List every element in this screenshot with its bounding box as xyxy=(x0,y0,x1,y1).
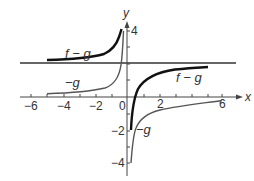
curve-label-f-minus-g-left: f − g xyxy=(65,46,91,61)
function-graph: x y −6 −4 −2 0 2 6 4 −2 −4 f − g −g f − … xyxy=(0,0,254,181)
x-tick-label: 0 xyxy=(119,99,126,113)
x-axis-arrow-icon xyxy=(236,95,243,100)
y-axis-label: y xyxy=(122,6,130,20)
y-tick-label: −4 xyxy=(111,156,125,170)
x-tick-label: −4 xyxy=(57,99,71,113)
x-axis-label: x xyxy=(244,90,252,104)
y-tick-label: −2 xyxy=(111,124,125,138)
x-tick-label: −6 xyxy=(24,99,38,113)
curve-label-neg-g-left: −g xyxy=(65,75,81,90)
curve-label-neg-g-right: −g xyxy=(136,122,152,137)
y-axis-arrow-icon xyxy=(125,21,130,28)
x-tick-label: −2 xyxy=(89,99,103,113)
x-tick-label: 6 xyxy=(219,97,226,111)
curve-label-f-minus-g-right: f − g xyxy=(176,70,202,85)
y-tick-label: 4 xyxy=(131,24,138,38)
